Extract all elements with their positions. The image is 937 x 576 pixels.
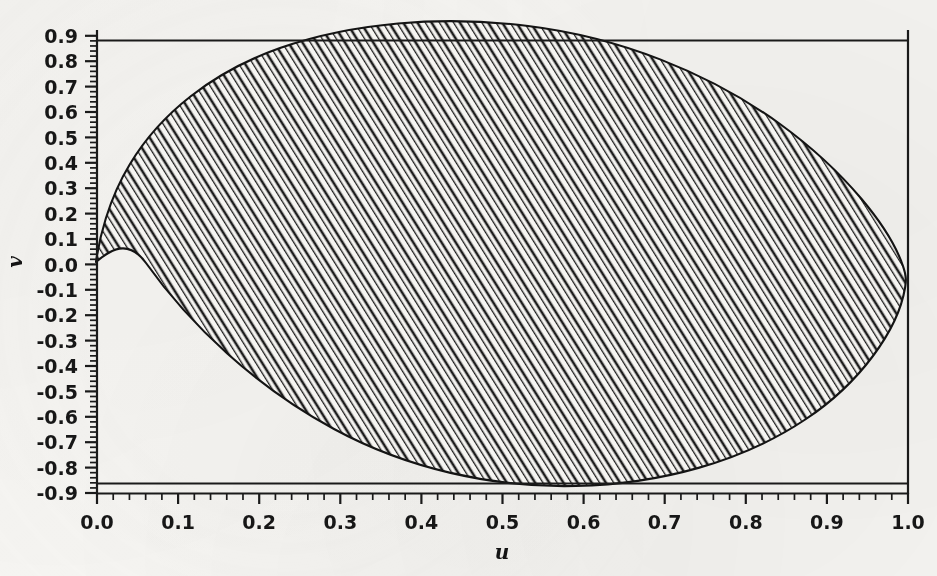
y-tick-label: 0.0: [44, 254, 78, 276]
y-tick-label: -0.5: [36, 381, 78, 403]
y-tick-labels: 0.9 0.8 0.7 0.6 0.5 0.4 0.3 0.2 0.1 0.0 …: [36, 25, 78, 504]
y-tick-label: -0.7: [36, 431, 78, 453]
y-tick-label: -0.6: [36, 406, 78, 428]
x-tick-label: 0.5: [486, 511, 520, 533]
y-tick-label: 0.2: [44, 203, 78, 225]
x-tick-label: 0.4: [405, 511, 439, 533]
x-tick-label: 0.0: [80, 511, 114, 533]
y-tick-label: 0.7: [44, 76, 78, 98]
x-tick-label: 0.3: [323, 511, 357, 533]
y-tick-label: 0.4: [44, 152, 78, 174]
x-axis-title: u: [495, 540, 510, 564]
y-tick-label: 0.8: [44, 50, 78, 72]
x-tick-label: 0.1: [161, 511, 195, 533]
y-axis-title: v: [3, 256, 27, 268]
x-tick-label: 0.7: [648, 511, 682, 533]
x-tick-label: 0.6: [567, 511, 601, 533]
y-tick-label: -0.8: [36, 457, 78, 479]
x-tick-label: 0.9: [810, 511, 844, 533]
x-axis-ticks: [97, 493, 908, 504]
x-tick-label: 0.8: [729, 511, 763, 533]
hatched-region-fill: [96, 21, 906, 486]
y-tick-label: 0.1: [44, 228, 78, 250]
hatched-region: [96, 21, 906, 486]
y-tick-label: 0.9: [44, 25, 78, 47]
x-tick-label: 0.2: [242, 511, 276, 533]
y-tick-label: -0.2: [36, 304, 78, 326]
y-tick-label: 0.5: [44, 127, 78, 149]
y-tick-label: -0.1: [36, 279, 78, 301]
x-tick-labels: 0.0 0.1 0.2 0.3 0.4 0.5 0.6 0.7 0.8 0.9 …: [80, 511, 925, 533]
x-tick-label: 1.0: [891, 511, 925, 533]
y-axis-ticks: [85, 36, 97, 493]
y-tick-label: -0.4: [36, 355, 78, 377]
y-tick-label: -0.9: [36, 482, 78, 504]
y-tick-label: 0.6: [44, 101, 78, 123]
y-tick-label: -0.3: [36, 330, 78, 352]
y-tick-label: 0.3: [44, 177, 78, 199]
plot-figure: 0.9 0.8 0.7 0.6 0.5 0.4 0.3 0.2 0.1 0.0 …: [0, 0, 937, 576]
